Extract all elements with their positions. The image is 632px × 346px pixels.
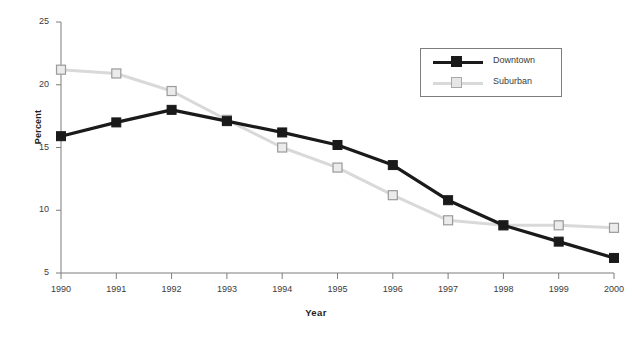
- y-tick-label: 10: [21, 204, 49, 214]
- x-tick-label: 1998: [478, 284, 528, 294]
- data-point-marker: [333, 163, 342, 172]
- data-point-marker: [167, 87, 176, 96]
- data-point-marker: [610, 253, 619, 262]
- legend-label-suburban: Suburban: [493, 76, 532, 86]
- x-tick-label: 1999: [534, 284, 584, 294]
- x-tick-label: 1991: [91, 284, 141, 294]
- x-tick-label: 1994: [257, 284, 307, 294]
- data-point-marker: [278, 143, 287, 152]
- data-point-marker: [388, 191, 397, 200]
- data-point-marker: [112, 118, 121, 127]
- x-axis-title: Year: [0, 307, 632, 318]
- data-point-marker: [444, 216, 453, 225]
- y-tick-label: 5: [21, 267, 49, 277]
- y-tick-label: 20: [21, 79, 49, 89]
- data-point-marker: [554, 221, 563, 230]
- line-chart: Percent 510152025 1990199119921993199419…: [0, 0, 632, 346]
- data-point-marker: [222, 117, 231, 126]
- data-point-marker: [444, 196, 453, 205]
- data-point-marker: [278, 128, 287, 137]
- legend-item-downtown: Downtown: [421, 52, 561, 72]
- data-point-marker: [499, 221, 508, 230]
- data-point-marker: [333, 140, 342, 149]
- legend-marker-downtown: [451, 56, 462, 67]
- x-tick-label: 1997: [423, 284, 473, 294]
- data-point-marker: [112, 69, 121, 78]
- legend-marker-suburban: [451, 77, 462, 88]
- data-point-marker: [167, 105, 176, 114]
- data-point-marker: [57, 65, 66, 74]
- y-tick-label: 25: [21, 16, 49, 26]
- x-tick-label: 1992: [147, 284, 197, 294]
- y-tick-label: 15: [21, 142, 49, 152]
- data-point-marker: [554, 237, 563, 246]
- data-point-marker: [610, 223, 619, 232]
- x-tick-label: 1993: [202, 284, 252, 294]
- series-downtown: [57, 105, 619, 262]
- legend-label-downtown: Downtown: [493, 55, 535, 65]
- data-point-marker: [57, 132, 66, 141]
- legend-item-suburban: Suburban: [421, 73, 561, 93]
- chart-legend: Downtown Suburban: [420, 48, 562, 97]
- data-point-marker: [388, 161, 397, 170]
- x-tick-label: 1996: [368, 284, 418, 294]
- x-tick-label: 1990: [36, 284, 86, 294]
- x-tick-label: 1995: [313, 284, 363, 294]
- x-tick-label: 2000: [589, 284, 632, 294]
